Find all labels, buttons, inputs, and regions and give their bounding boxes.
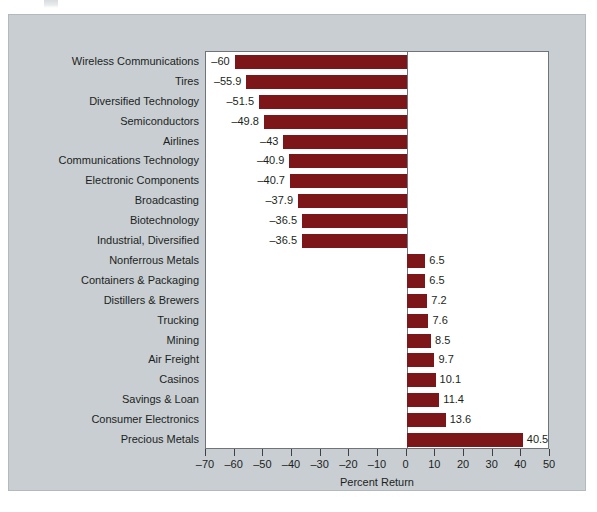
x-axis-tick — [262, 449, 263, 456]
value-label: 40.5 — [527, 433, 548, 445]
bar — [407, 393, 440, 407]
category-label: Consumer Electronics — [29, 413, 199, 425]
x-axis-tick — [492, 449, 493, 456]
value-label: 6.5 — [429, 254, 444, 266]
bar — [407, 433, 523, 447]
x-axis-tick — [348, 449, 349, 456]
x-axis-tick-label: 50 — [543, 458, 555, 470]
value-label: –36.5 — [9, 214, 297, 226]
x-axis-title: Percent Return — [205, 476, 549, 488]
x-axis-tick — [320, 449, 321, 456]
x-axis-tick-label: –60 — [224, 458, 242, 470]
value-label: 6.5 — [429, 274, 444, 286]
x-axis-tick — [549, 449, 550, 456]
bar — [302, 214, 407, 228]
bar — [302, 234, 407, 248]
x-axis-tick-label: 40 — [514, 458, 526, 470]
x-axis-tick-label: –70 — [196, 458, 214, 470]
bar — [407, 274, 426, 288]
category-axis-labels: Wireless CommunicationsTiresDiversified … — [29, 51, 199, 449]
category-label: Distillers & Brewers — [29, 294, 199, 306]
category-label: Savings & Loan — [29, 393, 199, 405]
x-axis-tick-label: 20 — [457, 458, 469, 470]
plot-area — [205, 51, 549, 449]
x-axis-tick — [205, 449, 206, 456]
value-label: –40.9 — [9, 154, 284, 166]
bar — [290, 174, 407, 188]
bar — [298, 194, 407, 208]
bar — [407, 334, 431, 348]
value-label: 7.2 — [431, 294, 446, 306]
bar — [407, 413, 446, 427]
bar — [264, 115, 407, 129]
value-label: –37.9 — [9, 194, 293, 206]
category-label: Mining — [29, 334, 199, 346]
x-axis-tick-label: –40 — [282, 458, 300, 470]
x-axis-tick-label: 30 — [486, 458, 498, 470]
x-axis-tick-label: –30 — [310, 458, 328, 470]
bar — [407, 314, 429, 328]
x-axis-tick — [463, 449, 464, 456]
x-axis-tick — [406, 449, 407, 456]
value-label: –36.5 — [9, 234, 297, 246]
x-axis-tick-label: 10 — [428, 458, 440, 470]
category-label: Air Freight — [29, 353, 199, 365]
bar — [407, 254, 426, 268]
x-axis-tick — [291, 449, 292, 456]
bar — [407, 373, 436, 387]
value-label: –43 — [9, 135, 278, 147]
value-label: 9.7 — [438, 353, 453, 365]
value-label: –40.7 — [9, 174, 285, 186]
category-label: Precious Metals — [29, 433, 199, 445]
x-axis-tick-label: 0 — [403, 458, 409, 470]
bar — [289, 154, 406, 168]
bar — [283, 135, 406, 149]
x-axis-tick — [520, 449, 521, 456]
bar — [235, 55, 407, 69]
x-axis-tick — [377, 449, 378, 456]
figure-panel: Wireless CommunicationsTiresDiversified … — [8, 14, 586, 491]
value-label: –60 — [9, 55, 230, 67]
category-label: Nonferrous Metals — [29, 254, 199, 266]
bar — [407, 353, 435, 367]
scan-artifact — [44, 0, 58, 8]
x-axis-tick-label: –50 — [253, 458, 271, 470]
bar — [246, 75, 406, 89]
value-label: 10.1 — [440, 373, 461, 385]
category-label: Casinos — [29, 373, 199, 385]
value-label: 7.6 — [432, 314, 447, 326]
x-axis-tick-label: –20 — [339, 458, 357, 470]
zero-baseline — [407, 52, 408, 448]
category-label: Trucking — [29, 314, 199, 326]
value-label: 8.5 — [435, 334, 450, 346]
value-label: –55.9 — [9, 75, 241, 87]
category-label: Containers & Packaging — [29, 274, 199, 286]
x-axis-tick-label: –10 — [368, 458, 386, 470]
bar — [407, 294, 428, 308]
value-label: 11.4 — [443, 393, 464, 405]
value-label: –51.5 — [9, 95, 254, 107]
value-label: 13.6 — [450, 413, 471, 425]
value-label: –49.8 — [9, 115, 259, 127]
x-axis: –70–60–50–40–30–20–1001020304050 — [205, 449, 549, 461]
x-axis-tick — [234, 449, 235, 456]
bar — [259, 95, 407, 109]
x-axis-tick — [434, 449, 435, 456]
